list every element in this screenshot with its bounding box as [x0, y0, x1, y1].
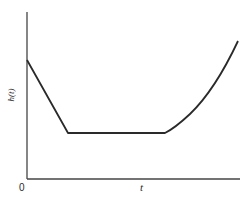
x-axis-label: t: [140, 181, 143, 193]
y-axis-label: h(t): [6, 89, 16, 102]
origin-label: 0: [19, 182, 25, 193]
hazard-curve: [27, 41, 238, 133]
chart-canvas: [0, 0, 252, 203]
